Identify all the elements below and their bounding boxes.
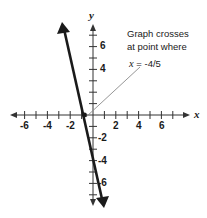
annotation-line-2: at point where: [127, 42, 187, 52]
y-tick-label-4: 4: [100, 64, 106, 74]
x-tick-label-neg4: -4: [43, 121, 52, 131]
annotation-line-1: Graph crosses: [127, 29, 189, 39]
x-tick-label-6: 6: [159, 121, 165, 131]
y-tick-label-6: 6: [100, 41, 106, 51]
annotation-equation-value: = -4/5: [134, 58, 161, 69]
x-tick-label-neg6: -6: [20, 121, 29, 131]
x-axis: [10, 112, 190, 118]
annotation-equation: x = -4/5: [129, 59, 161, 70]
x-axis-label: x: [194, 109, 200, 120]
y-tick-label-neg6: -6: [98, 178, 107, 188]
graph-figure: -6 -4 -2 2 4 6 6 4 -2 -4 -6 y x Graph cr…: [0, 0, 207, 218]
y-tick-label-neg2: -2: [98, 133, 107, 143]
y-tick-label-neg4: -4: [98, 156, 107, 166]
y-axis-label: y: [89, 10, 94, 21]
x-tick-label-neg2: -2: [66, 121, 75, 131]
x-tick-label-4: 4: [136, 121, 142, 131]
x-intercept-point: [82, 113, 87, 118]
x-tick-label-2: 2: [113, 121, 119, 131]
